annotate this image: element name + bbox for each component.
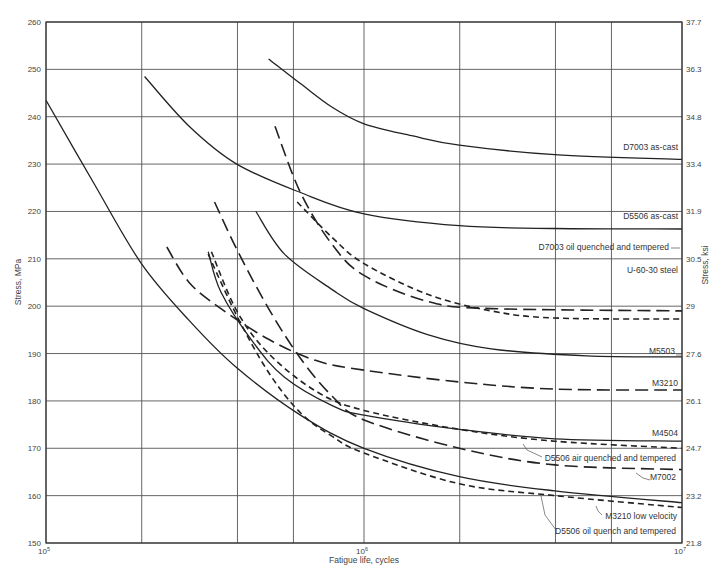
leader-line xyxy=(596,506,602,515)
y-tick-label: 220 xyxy=(28,207,42,216)
leader-line xyxy=(636,473,650,480)
curve-d5506-oil-quench-and-tempered xyxy=(208,254,682,507)
y-tick-label: 190 xyxy=(28,350,42,359)
curve-label: M3210 low velocity xyxy=(605,511,678,521)
y-axis-right-title: Stress, ksi xyxy=(700,245,710,284)
y-right-tick-label: 24.7 xyxy=(686,444,702,453)
y-right-tick-label: 31.9 xyxy=(686,207,702,216)
curve-label: U-60-30 steel xyxy=(627,265,678,275)
y-right-tick-label: 37.7 xyxy=(686,18,702,27)
fatigue-chart: D7003 as-castD5506 as-castD7003 oil quen… xyxy=(0,0,724,581)
y-tick-label: 240 xyxy=(28,113,42,122)
curve-label: D5506 as-cast xyxy=(623,211,678,221)
curve-label: D7003 as-cast xyxy=(623,142,678,152)
y-tick-label: 170 xyxy=(28,444,42,453)
y-right-tick-label: 21.8 xyxy=(686,539,702,548)
y-right-tick-label: 29 xyxy=(686,302,695,311)
curve-d7003-as-cast xyxy=(269,59,682,159)
curve-m5503 xyxy=(256,212,682,357)
curve-d5506-as-cast xyxy=(145,77,682,230)
curve-label: D5506 air quenched and tempered xyxy=(545,453,677,463)
y-right-tick-label: 27.6 xyxy=(686,350,702,359)
grid-lines xyxy=(46,22,682,543)
y-tick-label: 250 xyxy=(28,65,42,74)
x-axis-title: Fatigue life, cycles xyxy=(329,555,399,565)
leader-line xyxy=(541,496,556,530)
leader-line xyxy=(523,444,542,457)
y-tick-label: 230 xyxy=(28,160,42,169)
y-right-tick-label: 36.3 xyxy=(686,65,702,74)
y-axis-left-ticks: 150160170180190200210220230240250260 xyxy=(28,18,42,548)
y-tick-label: 180 xyxy=(28,397,42,406)
y-right-tick-label: 33.4 xyxy=(686,160,702,169)
curve-label: M5503 xyxy=(649,346,675,356)
curve-label: M4504 xyxy=(652,428,678,438)
y-right-tick-label: 23.2 xyxy=(686,492,702,501)
curve-label: M7002 xyxy=(650,472,676,482)
x-tick-label: 105 xyxy=(38,546,50,556)
curve-label: D7003 oil quenched and tempered xyxy=(539,242,670,252)
curve-labels: D7003 as-castD5506 as-castD7003 oil quen… xyxy=(539,142,679,536)
curve-d7003-oil-quenched-and-tempered xyxy=(275,126,682,311)
y-tick-label: 260 xyxy=(28,18,42,27)
y-right-tick-label: 26.1 xyxy=(686,397,702,406)
x-tick-label: 107 xyxy=(674,546,686,556)
y-tick-label: 160 xyxy=(28,492,42,501)
y-right-tick-label: 34.8 xyxy=(686,113,702,122)
curve-label: M3210 xyxy=(652,378,678,388)
y-axis-left-title: Stress, MPa xyxy=(13,259,23,306)
curve-label: D5506 oil quench and tempered xyxy=(555,526,676,536)
y-tick-label: 200 xyxy=(28,302,42,311)
curve-m4504 xyxy=(208,252,682,442)
y-tick-label: 210 xyxy=(28,255,42,264)
